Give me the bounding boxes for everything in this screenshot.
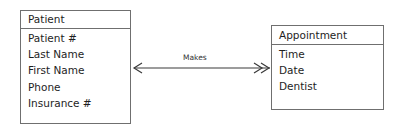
relationship-connector [0, 0, 403, 126]
relationship-label: Makes [183, 53, 207, 62]
